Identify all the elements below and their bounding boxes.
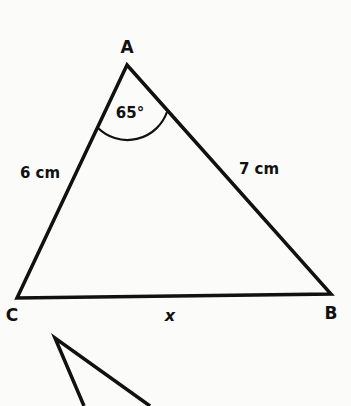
- partial-second-triangle: [55, 338, 150, 406]
- angle-a-label: 65°: [116, 104, 144, 122]
- triangle-outline: [17, 65, 331, 298]
- side-ac-label: 6 cm: [20, 164, 60, 182]
- triangle-abc: [17, 65, 331, 298]
- vertex-c-label: C: [6, 305, 18, 325]
- vertex-a-label: A: [120, 37, 134, 57]
- vertex-b-label: B: [325, 303, 338, 323]
- second-triangle-outline: [55, 338, 150, 406]
- side-cb-label: x: [164, 306, 176, 325]
- diagram-canvas: A C B 65° 6 cm 7 cm x: [0, 0, 351, 406]
- side-ab-label: 7 cm: [239, 160, 279, 178]
